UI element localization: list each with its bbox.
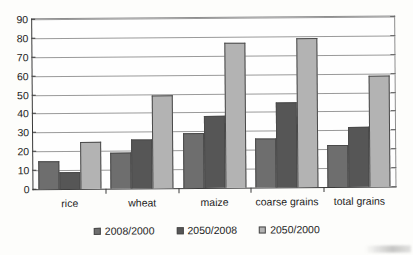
x-axis-tick-label: maize bbox=[178, 196, 250, 209]
x-axis-tick-label: rice bbox=[34, 197, 106, 210]
y-axis-tick-label: 50 bbox=[5, 90, 29, 101]
y-axis-tick-label: 30 bbox=[5, 127, 29, 138]
bar[interactable] bbox=[224, 42, 246, 188]
bar[interactable] bbox=[131, 139, 152, 188]
bar-groups bbox=[32, 17, 395, 190]
x-axis-tick-mark bbox=[178, 188, 179, 193]
x-axis-tick-label: total grains bbox=[323, 195, 395, 208]
bar[interactable] bbox=[183, 133, 204, 188]
bar-group bbox=[105, 18, 179, 189]
y-axis-tick-label: 70 bbox=[4, 52, 28, 63]
bar[interactable] bbox=[348, 126, 369, 187]
legend-item[interactable]: 2050/2008 bbox=[176, 224, 237, 236]
x-axis-tick-label: coarse grains bbox=[251, 195, 323, 208]
bar-chart: 9080706050403020100 ricewheatmaizecoarse… bbox=[0, 0, 413, 255]
x-axis-labels: ricewheatmaizecoarse grainstotal grains bbox=[34, 195, 396, 210]
y-axis-tick-label: 60 bbox=[5, 71, 29, 82]
bar-group bbox=[32, 19, 106, 190]
bar[interactable] bbox=[110, 153, 131, 189]
legend-label: 2050/2008 bbox=[187, 224, 237, 236]
y-axis-tick-label: 90 bbox=[4, 14, 28, 25]
x-axis-tick-mark bbox=[106, 189, 107, 194]
bar[interactable] bbox=[152, 96, 174, 189]
legend-swatch-icon bbox=[176, 227, 183, 234]
bar[interactable] bbox=[276, 102, 298, 187]
bar[interactable] bbox=[59, 172, 80, 189]
scan-artifact bbox=[365, 245, 411, 252]
legend-item[interactable]: 2008/2000 bbox=[94, 224, 155, 236]
y-axis-tick-label: 20 bbox=[5, 146, 29, 157]
x-axis-tick-mark bbox=[251, 188, 252, 193]
y-axis-tick-label: 0 bbox=[5, 184, 29, 195]
chart-legend: 2008/20002050/20082050/2000 bbox=[1, 222, 413, 237]
legend-item[interactable]: 2050/2000 bbox=[259, 223, 320, 235]
bar[interactable] bbox=[296, 38, 318, 187]
bar[interactable] bbox=[203, 116, 225, 188]
bar[interactable] bbox=[255, 138, 276, 187]
bar[interactable] bbox=[80, 142, 101, 189]
bar-group bbox=[177, 18, 251, 189]
bar[interactable] bbox=[38, 161, 59, 189]
y-axis-tick-label: 10 bbox=[5, 165, 29, 176]
x-axis-tick-label: wheat bbox=[106, 196, 178, 209]
y-axis-tick-label: 80 bbox=[4, 33, 28, 44]
legend-label: 2008/2000 bbox=[105, 224, 155, 236]
y-axis-labels: 9080706050403020100 bbox=[0, 18, 29, 190]
x-axis-tick-mark bbox=[323, 187, 324, 192]
y-axis-tick-label: 40 bbox=[5, 109, 29, 120]
bar-group bbox=[249, 17, 323, 188]
legend-swatch-icon bbox=[94, 227, 101, 234]
bar[interactable] bbox=[327, 145, 348, 187]
legend-label: 2050/2000 bbox=[270, 223, 320, 235]
bar[interactable] bbox=[369, 75, 391, 187]
legend-swatch-icon bbox=[259, 226, 266, 233]
bar-group bbox=[322, 17, 396, 188]
